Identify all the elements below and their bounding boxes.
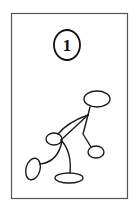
neck-line bbox=[88, 107, 90, 115]
hip-ellipse bbox=[46, 133, 62, 145]
head-ellipse bbox=[84, 91, 110, 107]
stick-figure bbox=[23, 91, 110, 183]
stick-figure-diagram: 1 bbox=[0, 0, 137, 214]
leg-line bbox=[61, 140, 70, 173]
badge-number: 1 bbox=[63, 36, 72, 55]
foot-ellipse bbox=[55, 173, 83, 183]
right-hand-ellipse bbox=[88, 146, 104, 158]
figure-number-badge: 1 bbox=[54, 30, 80, 60]
right-arm-line bbox=[83, 115, 91, 147]
left-hand-ellipse bbox=[23, 157, 42, 182]
